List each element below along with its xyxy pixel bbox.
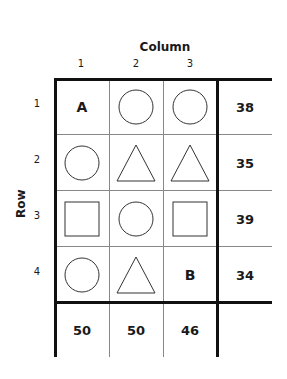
column-number-2: 2 — [109, 58, 163, 69]
circle-icon — [60, 253, 104, 297]
circle-icon — [60, 141, 104, 185]
square-icon — [168, 197, 212, 241]
square-icon — [60, 197, 104, 241]
circle-icon — [114, 85, 158, 129]
row-sum-1: 38 — [218, 79, 272, 135]
triangle-icon — [168, 141, 212, 185]
row-number-1: 1 — [30, 98, 44, 109]
row-number-4: 4 — [30, 266, 44, 277]
column-sum-3: 46 — [163, 304, 217, 357]
row-sum-3: 39 — [218, 191, 272, 247]
circle-icon — [168, 85, 212, 129]
triangle-icon — [114, 141, 158, 185]
column-sum-2: 50 — [109, 304, 163, 357]
row-axis-title: Row — [14, 189, 28, 218]
column-sum-1: 50 — [55, 304, 109, 357]
row-sum-2: 35 — [218, 135, 272, 191]
row-sum-4: 34 — [218, 247, 272, 303]
row-number-2: 2 — [30, 154, 44, 165]
triangle-icon — [114, 253, 158, 297]
cell-label-b: B — [185, 267, 196, 283]
circle-icon — [114, 197, 158, 241]
puzzle-grid: A 38 35 39 B 34 50 50 46 — [54, 78, 272, 357]
column-axis-title: Column — [110, 40, 220, 54]
column-number-3: 3 — [163, 58, 217, 69]
row-number-3: 3 — [30, 210, 44, 221]
column-number-1: 1 — [54, 58, 108, 69]
cell-label-a: A — [77, 99, 88, 115]
